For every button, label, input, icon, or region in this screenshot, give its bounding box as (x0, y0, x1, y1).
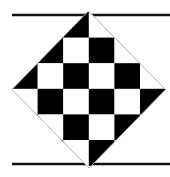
light-cell (63, 38, 89, 64)
light-cell (89, 114, 115, 140)
light-cell (38, 114, 64, 140)
dark-cell (38, 89, 64, 115)
light-cell (89, 63, 115, 89)
light-cell (12, 89, 38, 115)
light-cell (12, 38, 38, 64)
dark-cell (63, 63, 89, 89)
dark-cell (114, 114, 140, 140)
dark-cell (38, 140, 64, 166)
dark-cell (63, 114, 89, 140)
light-cell (12, 140, 38, 166)
light-cell (114, 89, 140, 115)
light-cell (38, 63, 64, 89)
checker-diamond-figure (0, 0, 170, 177)
dark-cell (12, 114, 38, 140)
dark-cell (114, 63, 140, 89)
light-cell (140, 114, 166, 140)
dark-cell (89, 140, 115, 166)
light-cell (63, 89, 89, 115)
light-cell (114, 140, 140, 166)
dark-cell (140, 140, 166, 166)
light-cell (63, 140, 89, 166)
checker-diamond-svg (0, 0, 170, 177)
dark-cell (89, 89, 115, 115)
checkerboard-cells (12, 12, 166, 166)
dark-cell (140, 38, 166, 64)
dark-cell (89, 38, 115, 64)
